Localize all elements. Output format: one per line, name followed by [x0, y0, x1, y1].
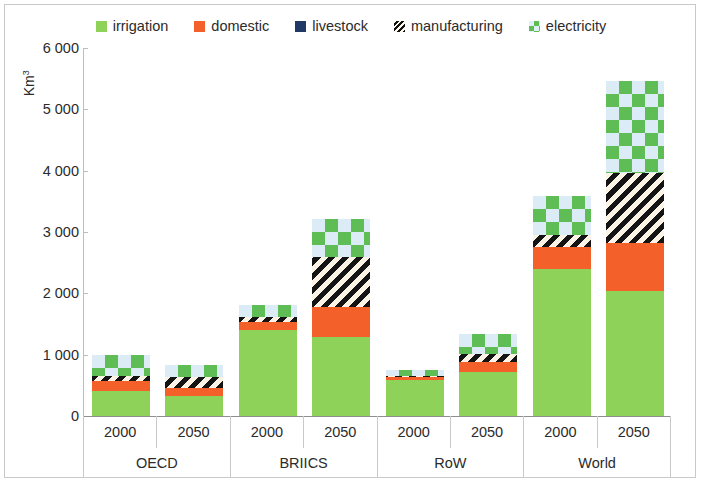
bar-segment-domestic	[312, 307, 370, 336]
y-axis-tick-label: 0	[5, 408, 79, 424]
bar-segment-electricity	[533, 196, 591, 235]
bar-segment-electricity	[606, 81, 664, 174]
bar-segment-domestic	[459, 362, 517, 372]
bar-segment-irrigation	[533, 269, 591, 416]
legend-item-electricity[interactable]: electricity	[529, 19, 606, 34]
bar-segment-irrigation	[606, 291, 664, 416]
bar-world-2000[interactable]	[533, 196, 591, 416]
bar-segment-manufacturing	[459, 354, 517, 362]
x-axis-group-row: OECDBRIICSRoWWorld	[83, 448, 671, 478]
x-axis-year-label: 2050	[304, 416, 377, 448]
x-axis-year-label: 2050	[157, 416, 230, 448]
bar-segment-manufacturing	[533, 235, 591, 247]
bar-segment-electricity	[92, 355, 150, 376]
x-axis-year-label: 2000	[231, 416, 304, 448]
y-axis-tick-label: 1 000	[5, 347, 79, 363]
legend-item-label: electricity	[546, 19, 606, 34]
bar-segment-manufacturing	[606, 173, 664, 243]
x-axis-year-row: 20002050200020502000205020002050	[83, 416, 671, 448]
legend-item-manufacturing[interactable]: manufacturing	[394, 19, 503, 34]
bar-oecd-2050[interactable]	[165, 365, 223, 417]
bar-segment-electricity	[239, 305, 297, 317]
bar-segment-electricity	[312, 219, 370, 257]
legend-item-label: irrigation	[113, 19, 169, 34]
legend-item-label: livestock	[312, 19, 368, 34]
bar-segment-irrigation	[386, 380, 444, 416]
bar-segment-irrigation	[92, 391, 150, 416]
bar-segment-domestic	[165, 388, 223, 395]
x-axis-year-label: 2050	[451, 416, 524, 448]
x-axis-year-label: 2000	[524, 416, 597, 448]
x-axis-year-label: 2000	[378, 416, 451, 448]
x-axis-group-label: World	[524, 448, 671, 478]
legend-item-irrigation[interactable]: irrigation	[96, 19, 169, 34]
square-swatch-icon	[96, 21, 107, 32]
x-axis-year-label: 2050	[598, 416, 671, 448]
bar-segment-domestic	[239, 322, 297, 331]
bar-segment-domestic	[533, 247, 591, 269]
y-axis-tick-label: 4 000	[5, 163, 79, 179]
x-axis-group-label: OECD	[83, 448, 231, 478]
bar-oecd-2000[interactable]	[92, 355, 150, 416]
bar-segment-electricity	[459, 334, 517, 354]
bar-segment-irrigation	[312, 337, 370, 416]
x-axis: 20002050200020502000205020002050 OECDBRI…	[83, 416, 671, 478]
bar-segment-domestic	[606, 243, 664, 291]
bar-briics-2000[interactable]	[239, 305, 297, 416]
y-axis-tick-label: 5 000	[5, 101, 79, 117]
chart-container: irrigationdomesticlivestockmanufacturing…	[4, 4, 696, 478]
bar-segment-irrigation	[165, 396, 223, 416]
y-axis-title-superscript: 3	[21, 70, 31, 75]
y-axis-tick-label: 3 000	[5, 224, 79, 240]
y-axis-title-text: Km	[21, 75, 37, 96]
chart-legend: irrigationdomesticlivestockmanufacturing…	[5, 15, 697, 37]
bar-segment-electricity	[165, 365, 223, 378]
bar-briics-2050[interactable]	[312, 219, 370, 416]
square-swatch-icon	[194, 21, 205, 32]
hatched-swatch-icon	[394, 21, 405, 32]
legend-item-label: manufacturing	[411, 19, 503, 34]
bar-segment-manufacturing	[165, 377, 223, 388]
bar-segment-manufacturing	[312, 257, 370, 308]
square-swatch-icon	[295, 21, 306, 32]
legend-item-livestock[interactable]: livestock	[295, 19, 368, 34]
x-axis-group-label: RoW	[378, 448, 525, 478]
checkered-swatch-icon	[529, 21, 540, 32]
y-axis-tick-label: 2 000	[5, 285, 79, 301]
y-axis-tick-label: 6 000	[5, 40, 79, 56]
bar-row-2050[interactable]	[459, 334, 517, 416]
legend-item-label: domestic	[211, 19, 269, 34]
legend-item-domestic[interactable]: domestic	[194, 19, 269, 34]
bar-world-2050[interactable]	[606, 81, 664, 416]
bar-segment-irrigation	[459, 372, 517, 416]
x-axis-year-label: 2000	[83, 416, 157, 448]
bar-segment-domestic	[92, 381, 150, 391]
plot-area	[83, 48, 671, 416]
bar-segment-irrigation	[239, 330, 297, 416]
bar-row-2000[interactable]	[386, 370, 444, 416]
x-axis-group-label: BRIICS	[231, 448, 378, 478]
